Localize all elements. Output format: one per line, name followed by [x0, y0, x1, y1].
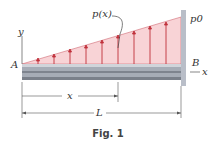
beam-diagram: [0, 0, 216, 146]
max-load-label: p0: [190, 14, 203, 24]
point-b-label: B: [192, 58, 199, 68]
fixed-wall: [181, 10, 186, 86]
figure-caption: Fig. 1: [0, 128, 216, 139]
load-function-label: p(x): [92, 9, 112, 19]
dimension-x-label: x: [67, 91, 73, 101]
point-a-label: A: [11, 60, 18, 70]
y-axis-label: y: [18, 27, 24, 37]
x-axis-label: x: [202, 67, 208, 77]
dimension-L-label: L: [96, 108, 103, 118]
